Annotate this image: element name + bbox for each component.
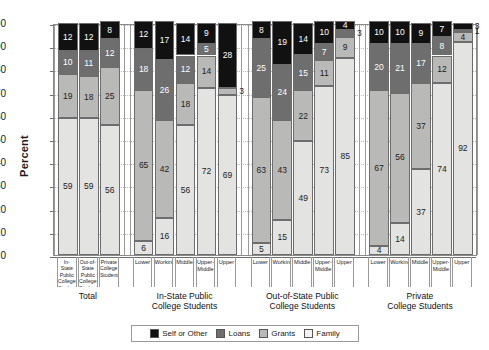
y-axis-title: Percent [18,116,30,196]
legend-swatch-self [150,329,159,338]
y-tick-label-100: 100 [0,19,6,29]
segment-grants: 18 [176,83,196,125]
segment-loans: 5 [197,44,217,56]
legend-item-family[interactable]: Family [304,329,340,338]
legend-item-grants[interactable]: Grants [259,329,295,338]
segment-value-label: 12 [63,33,72,42]
segment-family: 14 [390,223,410,255]
segment-family: 72 [197,88,217,255]
segment-self: 12 [58,23,78,51]
bar-lower[interactable]: 6651812 [134,23,154,255]
segment-value-label: 14 [299,35,308,44]
bar-upper[interactable]: 92413 [453,23,473,255]
segment-value-label: 8 [259,26,264,35]
segment-value-label: 9 [343,43,348,52]
segment-self: 10 [390,21,410,44]
legend-item-loans[interactable]: Loans [216,329,250,338]
legend-label: Grants [271,329,295,338]
segment-family: 85 [335,58,355,255]
category-label-lower: Lower [251,257,271,287]
segment-value-label: 56 [395,153,404,162]
segment-self: 8 [100,21,120,40]
segment-value-label: 17 [160,36,169,45]
segment-grants: 43 [272,120,292,220]
category-label-out-of-state-public-college-students: Out-of-StatePublicCollegeStudents [78,257,98,287]
category-label-working: Working [389,257,409,287]
bar-upper-middle[interactable]: 741287 [432,23,452,255]
segment-value-label: 12 [437,65,446,74]
segment-value-label: 3 [239,87,244,96]
bar-upper-middle[interactable]: 7311710 [314,23,334,255]
segment-value-label: 22 [299,112,308,121]
segment-value-label: 7 [440,25,445,34]
y-tick-label-10: 10 [0,228,6,238]
y-tick-label-80: 80 [0,65,6,75]
category-label-in-state-public-college-students: In-StatePublicCollegeStudents [57,257,77,287]
segment-value-label: 72 [202,167,211,176]
bar-upper-middle[interactable]: 721459 [197,23,217,255]
segment-value-label: 10 [63,58,72,67]
category-label-working: Working [271,257,291,287]
segment-value-label: 63 [257,166,266,175]
bar-working[interactable]: 14562110 [390,23,410,255]
y-tick-label-50: 50 [0,135,6,145]
bar-out-of-state-public-college-students[interactable]: 59181112 [79,23,99,255]
bar-upper[interactable]: 85934 [335,23,355,255]
segment-grants: 3 [218,88,238,95]
segment-value-label: 18 [84,93,93,102]
plot-area: 5919101259181112562512866518121642261756… [53,24,477,256]
y-tick-label-70: 70 [0,89,6,99]
bar-working[interactable]: 16422617 [155,23,175,255]
segment-value-label: 3 [357,29,362,38]
bar-upper[interactable]: 69328 [218,23,238,255]
legend-item-self[interactable]: Self or Other [150,329,207,338]
category-label-working: Working [154,257,174,287]
segment-value-label: 3 [475,22,480,31]
segment-value-label: 37 [416,122,425,131]
segment-loans: 17 [411,44,431,83]
legend-label: Self or Other [162,329,207,338]
segment-family: 5 [252,243,272,255]
segment-value-label: 17 [416,59,425,68]
segment-value-label: 12 [139,30,148,39]
bar-middle[interactable]: 49221514 [293,23,313,255]
group-title-out-of-state-public-college-students: Out-of-State PublicCollege Students [242,291,362,311]
segment-self: 3 [453,23,473,30]
bar-in-state-public-college-students[interactable]: 59191012 [58,23,78,255]
segment-family: 37 [411,169,431,255]
bar-middle[interactable]: 3737179 [411,23,431,255]
segment-value-label: 4 [461,33,466,42]
bar-lower[interactable]: 563258 [252,23,272,255]
segment-grants: 22 [293,90,313,141]
segment-value-label: 59 [63,182,72,191]
segment-grants: 63 [252,97,272,243]
segment-value-label: 85 [340,152,349,161]
segment-family: 59 [79,118,99,255]
segment-value-label: 24 [278,88,287,97]
legend-swatch-grants [259,329,268,338]
category-label-private-college-students: PrivateCollegeStudents [99,257,119,287]
bar-private-college-students[interactable]: 5625128 [100,23,120,255]
segment-value-label: 69 [223,171,232,180]
segment-loans: 18 [134,49,154,91]
segment-grants: 42 [155,120,175,217]
segment-self: 10 [314,21,334,44]
bar-middle[interactable]: 56181214 [176,23,196,255]
segment-value-label: 19 [278,38,287,47]
legend-swatch-loans [216,329,225,338]
segment-self: 19 [272,21,292,65]
segment-value-label: 10 [374,28,383,37]
segment-loans: 8 [432,37,452,56]
segment-self: 14 [293,23,313,55]
segment-family: 69 [218,95,238,255]
segment-value-label: 9 [419,29,424,38]
segment-loans: 11 [79,51,99,77]
bar-working[interactable]: 15432419 [272,23,292,255]
segment-value-label: 15 [278,233,287,242]
bar-lower[interactable]: 4672010 [369,23,389,255]
segment-loans: 12 [176,56,196,84]
segment-value-label: 59 [84,182,93,191]
segment-value-label: 16 [160,232,169,241]
segment-value-label: 56 [105,186,114,195]
category-label-middle: Middle [292,257,312,287]
